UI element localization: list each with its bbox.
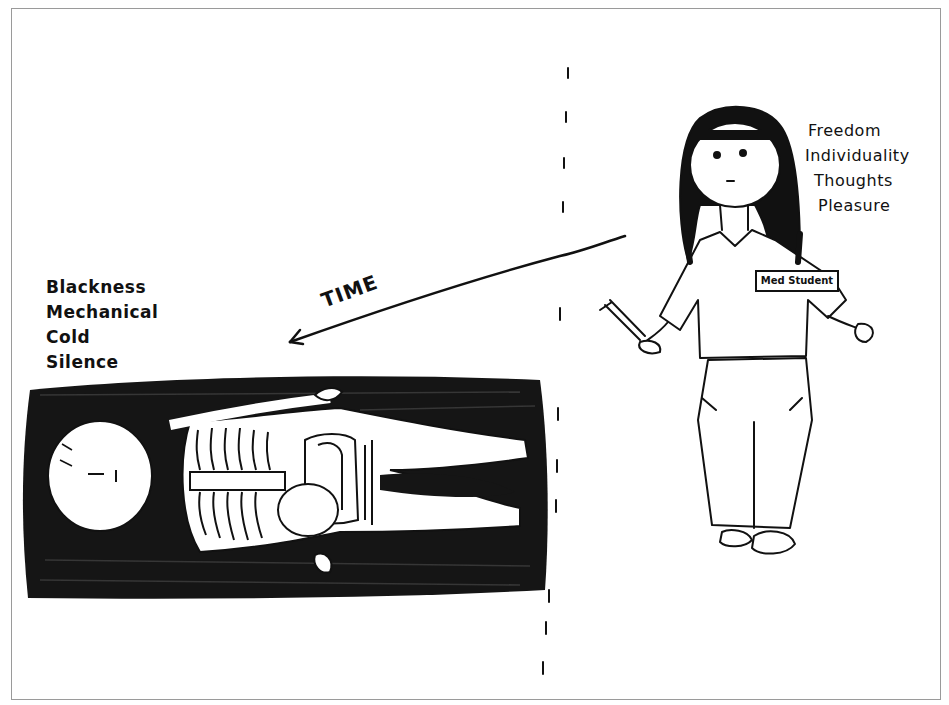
word-mechanical: Mechanical (46, 300, 158, 325)
word-freedom: Freedom (808, 118, 910, 143)
word-cold: Cold (46, 325, 158, 350)
word-blackness: Blackness (46, 275, 158, 300)
word-individuality: Individuality (805, 143, 910, 168)
word-thoughts: Thoughts (814, 168, 910, 193)
word-silence: Silence (46, 350, 158, 375)
dashed-divider (543, 68, 568, 674)
left-word-list: Blackness Mechanical Cold Silence (46, 275, 158, 375)
lying-figure (23, 376, 548, 598)
name-badge: Med Student (755, 270, 839, 292)
right-word-list: Freedom Individuality Thoughts Pleasure (808, 118, 910, 218)
word-pleasure: Pleasure (818, 193, 910, 218)
